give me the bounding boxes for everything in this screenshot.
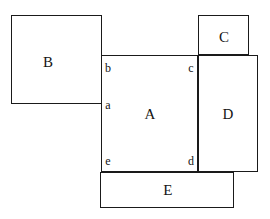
diagram-canvas: B C A D E b c a e d xyxy=(0,0,270,219)
region-label-B: B xyxy=(43,55,53,70)
region-label-A: A xyxy=(144,107,155,122)
rectangle-B xyxy=(12,16,102,104)
region-label-C: C xyxy=(219,30,229,45)
vertex-label-d: d xyxy=(188,155,194,167)
region-label-D: D xyxy=(222,107,233,122)
vertex-label-b: b xyxy=(105,62,111,74)
vertex-label-e: e xyxy=(105,155,110,167)
vertex-label-a: a xyxy=(105,99,110,111)
region-label-E: E xyxy=(163,183,172,198)
vertex-label-c: c xyxy=(188,62,193,74)
